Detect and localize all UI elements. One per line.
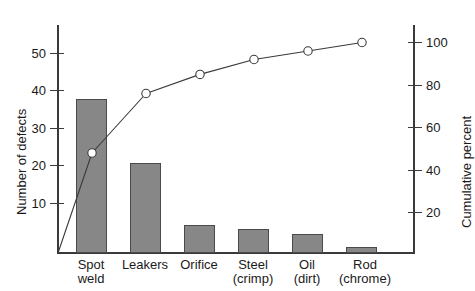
right-tick-20 [408,212,422,213]
category-label-leakers: Leakers [114,258,176,272]
bar-steel-crimp [238,229,269,253]
bar-leakers [130,163,161,253]
pareto-chart: 50 40 30 20 10 100 80 60 40 20 Spot weld… [0,0,475,291]
left-axis-line [57,25,59,254]
bar-oil-dirt [292,234,323,253]
category-line2: (chrome) [328,272,402,286]
cumulative-marker [142,89,150,97]
left-tick-10 [50,203,64,204]
y-axis-title-left: Number of defects [14,109,29,215]
left-tick-30 [50,128,64,129]
left-tick-label-50: 50 [16,47,46,60]
cumulative-markers [88,38,366,157]
right-tick-100 [408,42,422,43]
bar-orifice [184,225,215,253]
right-tick-40 [408,170,422,171]
category-line1: Spot [60,258,122,272]
category-line1: Rod [328,258,402,272]
right-tick-label-100: 100 [426,36,460,49]
y-axis-title-right: Cumulative percent [459,116,474,228]
category-line1: Leakers [114,258,176,272]
right-tick-80 [408,85,422,86]
right-axis-line [413,25,415,254]
cumulative-marker [358,38,366,46]
category-label-spot-weld: Spot weld [60,258,122,286]
right-tick-label-80: 80 [426,79,460,92]
right-tick-label-20: 20 [426,206,460,219]
right-tick-label-40: 40 [426,164,460,177]
category-label-orifice: Orifice [168,258,230,272]
bar-rod-chrome [346,247,377,253]
left-tick-label-40: 40 [16,84,46,97]
category-label-steel-crimp: Steel (crimp) [222,258,284,286]
right-tick-60 [408,127,422,128]
category-line2: weld [60,272,122,286]
bar-spot-weld [76,99,107,253]
left-tick-40 [50,90,64,91]
cumulative-marker [250,55,258,63]
cumulative-marker [196,70,204,78]
category-label-rod-chrome: Rod (chrome) [328,258,402,286]
category-line1: Steel [222,258,284,272]
right-tick-label-60: 60 [426,121,460,134]
category-line2: (crimp) [222,272,284,286]
left-tick-20 [50,165,64,166]
left-tick-50 [50,53,64,54]
category-line1: Orifice [168,258,230,272]
cumulative-marker [304,47,312,55]
